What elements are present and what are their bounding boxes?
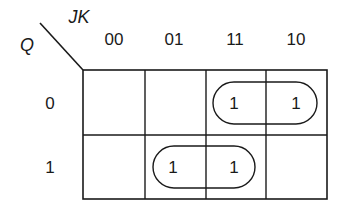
row-header-0: 0	[45, 95, 54, 112]
cell-1-11: 1	[229, 159, 238, 176]
col-header-11: 11	[226, 31, 244, 48]
row-header-1: 1	[45, 159, 54, 176]
col-header-01: 01	[165, 31, 184, 48]
corner-diagonal-line	[40, 23, 83, 70]
cell-0-11: 1	[229, 95, 238, 112]
cell-0-10: 1	[291, 95, 300, 112]
col-header-00: 00	[105, 31, 124, 48]
col-header-10: 10	[287, 31, 306, 48]
col-variable-label: JK	[68, 8, 89, 26]
row-variable-label: Q	[20, 36, 34, 54]
cell-1-01: 1	[168, 159, 177, 176]
